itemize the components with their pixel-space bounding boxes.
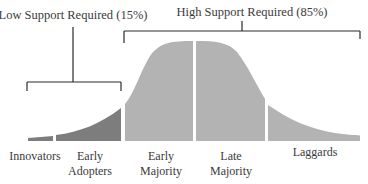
label-late-majority-line2: Majority <box>210 164 252 178</box>
segment-late-majority <box>196 41 265 141</box>
label-early-majority-line1: Early <box>148 149 174 163</box>
low-support-label: Low Support Required (15%) <box>0 8 147 22</box>
segment-early-adopters <box>56 108 121 141</box>
label-early-adopters-line2: Adopters <box>68 164 112 178</box>
segment-early-majority <box>125 41 193 141</box>
high-support-bracket <box>124 21 360 43</box>
label-innovators: Innovators <box>9 149 61 163</box>
high-support-label: High Support Required (85%) <box>176 5 327 19</box>
label-early-majority-line2: Majority <box>140 164 182 178</box>
segment-innovators <box>28 136 53 141</box>
low-support-bracket <box>27 27 121 91</box>
label-early-adopters-line1: Early <box>77 149 103 163</box>
label-late-majority-line1: Late <box>220 149 241 163</box>
adoption-curve-diagram: Low Support Required (15%) High Support … <box>0 0 368 184</box>
label-laggards: Laggards <box>293 145 338 159</box>
segment-laggards <box>268 105 360 141</box>
